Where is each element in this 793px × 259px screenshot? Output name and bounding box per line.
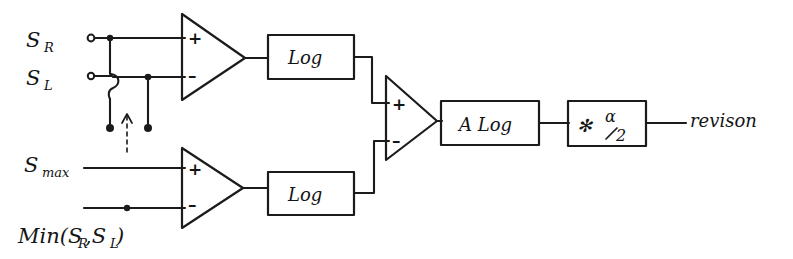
- input-s-l-subscript: L: [43, 78, 53, 93]
- handdrawn-block-diagram: S R S L S max Min(S R ,S L ): [0, 0, 793, 259]
- input-s-r-subscript: R: [43, 40, 54, 55]
- amp-center-minus-sign: –: [392, 131, 401, 151]
- log-bottom-label: Log: [287, 184, 322, 205]
- gain-numerator: α: [605, 107, 616, 126]
- block-log-bottom: Log: [268, 172, 354, 215]
- diagram-canvas: S R S L S max Min(S R ,S L ): [0, 0, 793, 259]
- amp-top-triangle: [182, 14, 245, 100]
- switch-selector-arrow-icon: [122, 114, 132, 152]
- input-min-part2: ,S: [85, 224, 106, 248]
- amp-top: + –: [182, 14, 268, 100]
- input-label-s-r: S R: [26, 28, 54, 55]
- amp-center: + –: [386, 76, 442, 160]
- junction-min-rail: [124, 205, 130, 211]
- input-label-min-sr-sl: Min(S R ,S L ): [17, 224, 124, 251]
- input-min-part3: ): [115, 224, 124, 248]
- terminal-s-r: [88, 35, 95, 42]
- amp-bottom-plus-sign: +: [188, 159, 202, 179]
- input-s-max-letter: S: [24, 153, 38, 177]
- output-label: revison: [690, 110, 757, 131]
- block-gain: ✻ α 2: [568, 101, 646, 146]
- amp-bottom: + –: [182, 148, 268, 228]
- gain-denominator: 2: [615, 126, 626, 145]
- input-label-s-max: S max: [24, 153, 70, 180]
- antilog-label: A Log: [457, 114, 512, 135]
- input-label-s-l: S L: [26, 66, 53, 93]
- input-s-r-letter: S: [26, 28, 40, 52]
- wire-log-top-to-center-plus: [354, 57, 389, 103]
- gain-multiply-symbol: ✻: [577, 115, 594, 136]
- amp-bottom-minus-sign: –: [188, 195, 197, 215]
- switch-contact-left: [106, 124, 114, 132]
- amp-center-plus-sign: +: [392, 94, 406, 114]
- wire-log-bottom-to-center-minus: [354, 141, 389, 193]
- block-antilog: A Log: [441, 101, 539, 145]
- amp-top-minus-sign: –: [188, 66, 197, 86]
- amp-top-plus-sign: +: [188, 28, 202, 48]
- switch-contact-right: [144, 124, 152, 132]
- input-s-max-subscript: max: [42, 165, 70, 180]
- input-min-part1: Min(S: [17, 224, 82, 248]
- log-top-label: Log: [287, 47, 322, 68]
- block-log-top: Log: [268, 35, 354, 79]
- input-s-l-letter: S: [26, 66, 40, 90]
